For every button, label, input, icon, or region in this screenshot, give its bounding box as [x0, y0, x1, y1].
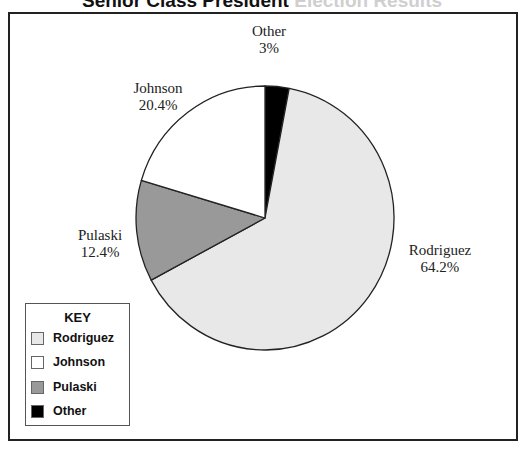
- slice-label-pulaski-pct: 12.4%: [78, 244, 122, 261]
- legend-item-johnson: Johnson: [31, 354, 105, 370]
- legend-label-pulaski: Pulaski: [53, 380, 97, 394]
- legend-item-rodriguez: Rodriguez: [31, 330, 114, 346]
- legend-swatch-rodriguez: [31, 332, 44, 345]
- slice-label-rodriguez-name: Rodriguez: [409, 242, 471, 259]
- legend-label-johnson: Johnson: [53, 355, 105, 369]
- legend-swatch-pulaski: [31, 381, 44, 394]
- slice-label-johnson-name: Johnson: [133, 80, 182, 97]
- legend-swatch-other: [31, 405, 44, 418]
- legend-item-other: Other: [31, 403, 86, 419]
- slice-label-other: Other 3%: [252, 23, 286, 57]
- legend-label-other: Other: [53, 404, 86, 418]
- legend-item-pulaski: Pulaski: [31, 379, 97, 395]
- slice-label-pulaski: Pulaski 12.4%: [78, 227, 122, 261]
- pie-slices: [136, 86, 394, 350]
- slice-label-johnson: Johnson 20.4%: [133, 80, 182, 114]
- legend-label-rodriguez: Rodriguez: [53, 331, 114, 345]
- legend-key: KEY Rodriguez Johnson Pulaski Other: [25, 303, 130, 426]
- slice-label-johnson-pct: 20.4%: [133, 97, 182, 114]
- slice-label-rodriguez-pct: 64.2%: [409, 259, 471, 276]
- slice-label-rodriguez: Rodriguez 64.2%: [409, 242, 471, 276]
- legend-title: KEY: [26, 310, 129, 326]
- legend-swatch-johnson: [31, 356, 44, 369]
- slice-label-other-pct: 3%: [252, 40, 286, 57]
- slice-label-pulaski-name: Pulaski: [78, 227, 122, 244]
- slice-label-other-name: Other: [252, 23, 286, 40]
